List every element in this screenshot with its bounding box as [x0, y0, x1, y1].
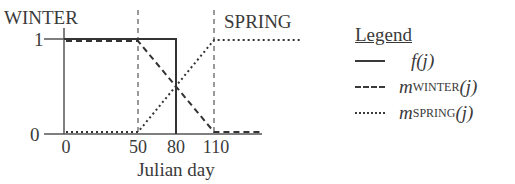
- legend-item-m-spring: mSPRING(j): [355, 102, 473, 124]
- series-f: [64, 39, 176, 134]
- legend-item-m-winter: mWINTER(j): [355, 76, 477, 98]
- series-m-spring: [66, 40, 302, 132]
- x-tick-label-110: 110: [203, 138, 229, 156]
- solid-line-swatch: [355, 60, 385, 62]
- series-m-winter: [66, 41, 262, 132]
- legend-title: Legend: [355, 24, 412, 46]
- legend-item-f: f(j): [355, 50, 434, 72]
- dotted-line-swatch: [355, 112, 385, 114]
- y-tick-label-0: 0: [30, 125, 40, 144]
- x-axis-label: Julian day: [137, 160, 215, 179]
- region-label-winter: WINTER: [4, 8, 78, 27]
- x-tick-label-80: 80: [167, 138, 185, 156]
- x-tick-label-50: 50: [129, 138, 147, 156]
- x-tick-label-0: 0: [62, 138, 71, 156]
- y-tick-label-1: 1: [34, 30, 44, 49]
- region-label-spring: SPRING: [224, 12, 292, 31]
- dashed-line-swatch: [355, 86, 385, 88]
